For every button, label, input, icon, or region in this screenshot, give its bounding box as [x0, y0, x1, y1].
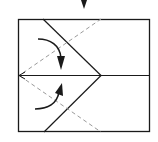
top-diagonal	[43, 19, 101, 76]
origami-diagram	[0, 0, 158, 142]
fold-down-arrow-icon	[38, 39, 65, 70]
bottom-dashed	[20, 76, 101, 132]
down-arrow-icon	[81, 0, 87, 9]
diagram-svg	[0, 0, 158, 142]
